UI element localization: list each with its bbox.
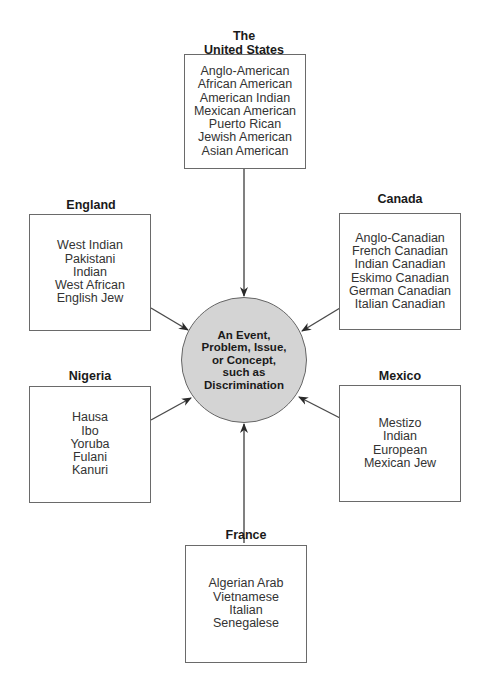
center-hub-label: An Event, Problem, Issue, or Concept, su… xyxy=(201,329,286,392)
arrow-canada xyxy=(302,308,340,331)
list-item: Anglo-Canadian xyxy=(349,232,451,245)
list-item: Indian xyxy=(55,266,125,279)
node-box-united-states: Anglo-American African American American… xyxy=(184,54,306,169)
list-item: Pakistani xyxy=(55,253,125,266)
list-item: Asian American xyxy=(194,145,296,158)
list-item: Italian Canadian xyxy=(349,298,451,311)
node-box-canada: Anglo-Canadian French Canadian Indian Ca… xyxy=(339,213,461,330)
node-title-france: France xyxy=(185,528,307,542)
list-item: German Canadian xyxy=(349,285,451,298)
node-items-mexico: Mestizo Indian European Mexican Jew xyxy=(364,417,436,470)
list-item: Mexican American xyxy=(194,105,296,118)
list-item: Yoruba xyxy=(70,438,109,451)
node-items-nigeria: Hausa Ibo Yoruba Fulani Kanuri xyxy=(70,411,109,477)
list-item: French Canadian xyxy=(349,245,451,258)
list-item: Kanuri xyxy=(70,464,109,477)
list-item: Mexican Jew xyxy=(364,457,436,470)
list-item: Ibo xyxy=(70,425,109,438)
arrow-nigeria xyxy=(151,398,191,420)
list-item: Jewish American xyxy=(194,131,296,144)
list-item: American Indian xyxy=(194,92,296,105)
list-item: Hausa xyxy=(70,411,109,424)
node-box-nigeria: Hausa Ibo Yoruba Fulani Kanuri xyxy=(29,386,151,503)
node-title-nigeria: Nigeria xyxy=(29,369,151,383)
list-item: Mestizo xyxy=(364,417,436,430)
node-title-canada: Canada xyxy=(339,192,461,206)
list-item: Indian Canadian xyxy=(349,258,451,271)
list-item: Fulani xyxy=(70,451,109,464)
node-box-england: West Indian Pakistani Indian West Africa… xyxy=(29,214,151,331)
list-item: Indian xyxy=(364,430,436,443)
node-title-england: England xyxy=(30,198,152,212)
node-box-mexico: Mestizo Indian European Mexican Jew xyxy=(339,385,461,502)
node-items-united-states: Anglo-American African American American… xyxy=(194,65,296,158)
list-item: Eskimo Canadian xyxy=(349,272,451,285)
arrow-england xyxy=(151,308,188,330)
center-hub-circle: An Event, Problem, Issue, or Concept, su… xyxy=(181,297,307,423)
node-title-mexico: Mexico xyxy=(339,369,461,383)
list-item: African American xyxy=(194,78,296,91)
list-item: European xyxy=(364,444,436,457)
list-item: West Indian xyxy=(55,239,125,252)
list-item: Algerian Arab xyxy=(208,577,283,590)
node-items-canada: Anglo-Canadian French Canadian Indian Ca… xyxy=(349,232,451,312)
ethnic-groups-diagram: The United States Anglo-American African… xyxy=(0,0,489,693)
node-items-france: Algerian Arab Vietnamese Italian Senegal… xyxy=(208,577,283,630)
node-title-united-states: The United States xyxy=(194,29,294,57)
list-item: Anglo-American xyxy=(194,65,296,78)
list-item: English Jew xyxy=(55,292,125,305)
node-box-france: Algerian Arab Vietnamese Italian Senegal… xyxy=(185,545,307,663)
list-item: Puerto Rican xyxy=(194,118,296,131)
arrow-mexico xyxy=(299,397,340,418)
node-items-england: West Indian Pakistani Indian West Africa… xyxy=(55,239,125,305)
list-item: West African xyxy=(55,279,125,292)
list-item: Italian xyxy=(208,604,283,617)
list-item: Senegalese xyxy=(208,617,283,630)
list-item: Vietnamese xyxy=(208,591,283,604)
